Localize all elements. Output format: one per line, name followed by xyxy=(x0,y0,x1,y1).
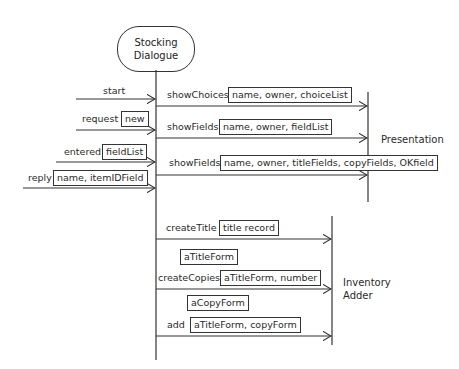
message-showchoices-args: name, owner, choiceList xyxy=(228,87,352,103)
stocking-dialogue-object: Stocking Dialogue xyxy=(117,26,195,72)
inventory-adder-participant: Inventory Adder xyxy=(343,276,391,302)
message-start: start xyxy=(103,85,125,97)
message-showfields-2: showFields xyxy=(169,157,220,169)
return-acopyform: aCopyForm xyxy=(187,295,249,311)
message-showchoices: showChoices xyxy=(167,89,229,101)
object-name-line2: Dialogue xyxy=(134,49,178,62)
return-atitleform: aTitleForm xyxy=(180,249,238,265)
object-name-line1: Stocking xyxy=(134,36,178,49)
message-showfields-1-args: name, owner, fieldList xyxy=(219,119,332,135)
message-add: add xyxy=(167,319,185,331)
message-createtitle-args: title record xyxy=(219,220,279,236)
inventory-line2: Adder xyxy=(343,289,391,302)
message-request: request xyxy=(82,113,118,125)
message-createcopies-args: aTitleForm, number xyxy=(220,270,321,286)
message-entered-args: fieldList xyxy=(102,144,147,160)
inventory-line1: Inventory xyxy=(343,276,391,289)
message-add-args: aTitleForm, copyForm xyxy=(190,317,301,333)
message-showfields-1: showFields xyxy=(167,121,218,133)
message-reply: reply xyxy=(28,172,52,184)
message-reply-args: name, itemIDField xyxy=(53,170,148,186)
presentation-participant: Presentation xyxy=(381,133,444,146)
message-createtitle: createTitle xyxy=(166,222,217,234)
message-entered: entered xyxy=(64,146,101,158)
message-showfields-2-args: name, owner, titleFields, copyFields, OK… xyxy=(220,155,438,171)
message-request-args: new xyxy=(121,111,149,127)
message-createcopies: createCopies xyxy=(158,272,220,284)
